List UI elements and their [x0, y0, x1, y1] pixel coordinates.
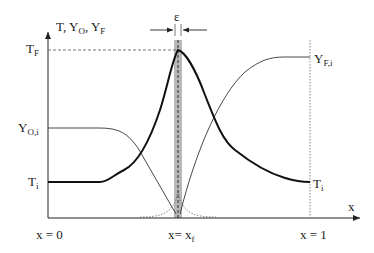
yo-curve [48, 128, 176, 214]
x-axis-label: x [348, 200, 355, 213]
x0-label: x = 0 [36, 228, 63, 241]
x1-label: x = 1 [300, 228, 327, 241]
epsilon-label: ε [174, 10, 179, 23]
ti-left-label: Ti [28, 175, 38, 191]
ti-right-label: Ti [313, 177, 323, 193]
yoi-label: YO,i [18, 121, 39, 137]
xf-label: x= xf [168, 228, 195, 244]
tf-label: TF [26, 42, 39, 58]
combustion-profile-diagram [0, 0, 374, 253]
yfi-label: YF,i [314, 52, 332, 68]
y-axis-label: T, YO, YF [56, 20, 105, 36]
